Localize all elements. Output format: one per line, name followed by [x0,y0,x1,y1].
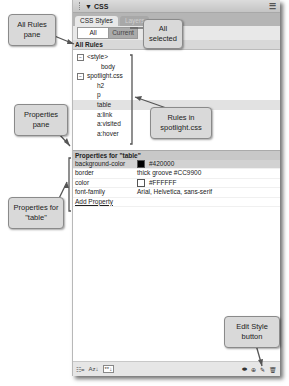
property-row[interactable]: border thick groove #CC9900 [73,169,280,178]
properties-heading: Properties for "table" [73,150,280,160]
alphabetical-view-icon[interactable]: Az↓ [89,366,99,372]
edit-style-icon[interactable]: ✎ [260,366,265,373]
rule-p[interactable]: p [73,90,280,100]
rule-body[interactable]: body [73,62,280,72]
callout-properties-for-table: Properties for "table" [8,197,64,229]
new-css-rule-icon[interactable]: ⊕ [251,366,256,373]
property-row[interactable]: color #FFFFFF [73,179,280,188]
callout-rules-in-spotlight: Rules in spotlight.css [150,107,212,139]
add-property-link[interactable]: Add Property [73,198,135,206]
property-row[interactable]: font-family Arial, Helvetica, sans-serif [73,188,280,197]
drag-grip-icon[interactable] [79,2,82,10]
callout-edit-style-button: Edit Style button [224,316,280,348]
collapse-tree-icon[interactable]: − [77,73,84,80]
callout-properties-pane: Properties pane [14,104,68,136]
callout-all-rules-pane: All Rules pane [8,14,56,46]
panel-options-icon[interactable]: ☰ [269,2,276,11]
add-property-row: Add Property [73,198,280,207]
rule-spotlight-css[interactable]: −spotlight.css [73,71,280,81]
collapse-tree-icon[interactable]: − [77,54,84,61]
current-mode-button[interactable]: Current [109,27,138,39]
panel-titlebar[interactable]: ▼ CSS ☰ [73,0,280,13]
callout-all-selected: All selected [143,19,183,49]
attach-stylesheet-icon[interactable]: ⬬ [242,366,247,373]
color-swatch[interactable] [137,179,145,187]
tab-css-styles[interactable]: CSS Styles [75,16,118,26]
collapse-arrow-icon[interactable]: ▼ [85,3,92,10]
panel-title: CSS [94,3,108,10]
color-swatch[interactable] [137,160,145,168]
category-view-icon[interactable]: ☷= [76,366,85,373]
property-row[interactable]: background-color #420000 [73,160,280,169]
set-properties-view-icon[interactable]: **↓ [103,365,115,373]
delete-css-rule-icon[interactable]: 🗑 [269,366,277,373]
bottom-toolbar: ☷= Az↓ **↓ ⬬ ⊕ ✎ 🗑 [73,361,280,376]
rule-h2[interactable]: h2 [73,81,280,91]
all-mode-button[interactable]: All [77,27,109,39]
rule-style[interactable]: −<style> [73,52,280,62]
properties-pane: background-color #420000 border thick gr… [73,160,280,207]
